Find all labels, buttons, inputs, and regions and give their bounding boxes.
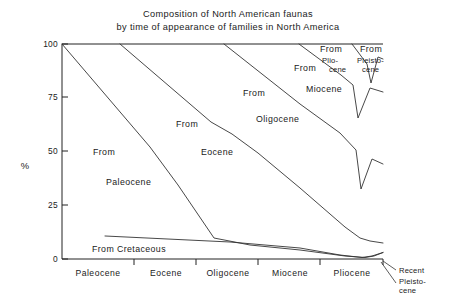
chart-container: Composition of North American faunas by … xyxy=(0,0,456,305)
x-tick-label-pliocene: Pliocene xyxy=(334,268,371,278)
band-label-miocene-line2: Miocene xyxy=(306,84,342,94)
right-axis-annotations: Recent Pleisto- cene xyxy=(381,261,426,295)
band-label-pleistocene-line1: From xyxy=(360,44,382,54)
x-tick-label-oligocene: Oligocene xyxy=(206,268,249,278)
x-tick-label-miocene: Miocene xyxy=(272,268,308,278)
band-label-pliocene-line2: Plio- xyxy=(322,56,338,65)
annotation-pleisto-2: cene xyxy=(399,286,416,295)
band-label-miocene-line1: From xyxy=(294,63,316,73)
band-label-oligocene-line1: From xyxy=(243,88,265,98)
band-label-paleocene-line2: Paleocene xyxy=(106,177,151,187)
y-tick-label-25: 25 xyxy=(48,200,58,210)
band-label-pliocene-line3: cene xyxy=(329,65,346,74)
y-tick-label-0: 0 xyxy=(53,254,58,264)
band-label-pleistocene-line3: cene xyxy=(362,65,379,74)
y-tick-label-50: 50 xyxy=(48,146,58,156)
y-ticks xyxy=(62,44,68,259)
band-label-eocene-line2: Eocene xyxy=(201,147,233,157)
band-label-pliocene-line1: From xyxy=(320,44,342,54)
band-label-eocene-line1: From xyxy=(176,119,198,129)
chart-title-line1: Composition of North American faunas xyxy=(143,9,313,19)
annotation-recent: Recent xyxy=(399,266,425,275)
band-label-paleocene-line1: From xyxy=(93,147,115,157)
x-ticks xyxy=(134,259,383,265)
chart-title-line2: by time of appearance of families in Nor… xyxy=(117,22,340,32)
band-label-pleistocene-line2: Pleisto- xyxy=(357,56,384,65)
y-tick-label-75: 75 xyxy=(48,92,58,102)
annotation-pleisto: Pleisto- xyxy=(399,277,426,286)
band-label-oligocene-line2: Oligocene xyxy=(256,114,299,124)
band-label-cretaceous: From Cretaceous xyxy=(92,244,166,254)
x-tick-label-paleocene: Paleocene xyxy=(75,268,120,278)
y-axis-label: % xyxy=(21,160,29,171)
y-tick-label-100: 100 xyxy=(43,39,58,49)
faunas-area-chart: Composition of North American faunas by … xyxy=(0,0,456,305)
x-tick-label-eocene: Eocene xyxy=(150,268,182,278)
